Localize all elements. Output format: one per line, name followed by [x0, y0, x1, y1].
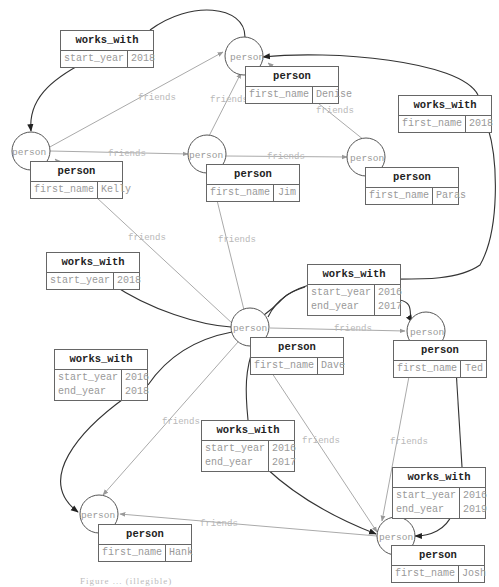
- edge-works-with-dave-ww5: [148, 332, 232, 385]
- edge-label: friends: [162, 417, 200, 427]
- person-table-josh[interactable]: person first_nameJosh: [391, 545, 485, 583]
- prop-value: Ted: [461, 361, 486, 377]
- prop-key: start_year: [205, 442, 265, 456]
- edge-label: friends: [108, 149, 146, 159]
- edge-works-with-denise-kelly: [31, 10, 245, 131]
- edge-label: friends: [200, 519, 238, 529]
- prop-key: start_year: [58, 371, 118, 385]
- prop-value: 2019: [463, 503, 487, 517]
- table-title: person: [392, 546, 484, 566]
- edge-works-with-ww5-hank: [61, 397, 126, 512]
- prop-value: Dave: [318, 358, 348, 374]
- edge-works-with-ww6-josh: [266, 468, 376, 534]
- prop-value: 2017: [272, 456, 296, 470]
- prop-key: first_name: [366, 188, 433, 204]
- prop-key: first_name: [207, 185, 274, 201]
- person-table-hank[interactable]: person first_nameHank: [98, 524, 192, 562]
- works-with-table-6[interactable]: works_with start_yearend_year 20162017: [201, 420, 295, 472]
- prop-value: 2016: [463, 489, 487, 503]
- prop-key: first_name: [246, 87, 313, 103]
- svg-text:person: person: [233, 323, 267, 334]
- edge-works-with-ted-ww7: [456, 369, 462, 467]
- table-title: works_with: [55, 350, 147, 370]
- table-title: works_with: [399, 96, 491, 116]
- works-with-table-1[interactable]: works_with start_year2018: [60, 30, 154, 68]
- prop-value: 2016: [272, 442, 296, 456]
- prop-value: Josh: [459, 566, 489, 582]
- table-title: works_with: [308, 265, 400, 285]
- edge-label: friends: [302, 436, 340, 446]
- prop-value: 2016: [125, 371, 149, 385]
- prop-value: 2017: [378, 300, 402, 314]
- edge-label: friends: [138, 93, 176, 103]
- edge-label: friends: [210, 95, 248, 105]
- prop-key: start_year: [396, 489, 456, 503]
- table-title: works_with: [61, 31, 153, 51]
- table-title: works_with: [393, 468, 485, 488]
- table-title: person: [99, 525, 191, 545]
- works-with-table-3[interactable]: works_with start_year2018: [46, 252, 140, 290]
- works-with-table-5[interactable]: works_with start_yearend_year 20162018: [54, 349, 148, 401]
- prop-key: first_name: [99, 545, 166, 561]
- svg-text:person: person: [230, 52, 264, 63]
- person-table-ted[interactable]: person first_nameTed: [393, 340, 487, 378]
- prop-value: Hank: [166, 545, 196, 561]
- prop-value: Jim: [274, 185, 299, 201]
- svg-text:person: person: [410, 327, 444, 338]
- prop-key: start_year: [61, 51, 128, 67]
- svg-text:person: person: [379, 532, 413, 543]
- svg-text:person: person: [81, 510, 115, 521]
- prop-key: first_name: [251, 358, 318, 374]
- svg-text:person: person: [189, 150, 223, 161]
- prop-key: first_name: [392, 566, 459, 582]
- edge-label: friends: [267, 152, 305, 162]
- person-table-paras[interactable]: person first_nameParas: [365, 167, 459, 205]
- works-with-table-7[interactable]: works_with start_yearend_year 20162019: [392, 467, 486, 519]
- prop-value: 2018: [114, 273, 144, 289]
- prop-key: first_name: [394, 361, 461, 377]
- person-table-jim[interactable]: person first_nameJim: [206, 164, 300, 202]
- figure-caption: Figure ... (illegible): [80, 576, 172, 586]
- edge-label: friends: [390, 437, 428, 447]
- prop-key: end_year: [311, 300, 371, 314]
- works-with-table-2[interactable]: works_with first_name2018: [398, 95, 492, 133]
- svg-text:person: person: [12, 147, 46, 158]
- svg-text:person: person: [350, 153, 384, 164]
- person-table-kelly[interactable]: person first_nameKelly: [30, 161, 123, 199]
- table-title: works_with: [202, 421, 294, 441]
- edge-label: friends: [334, 324, 372, 334]
- table-title: person: [251, 338, 343, 358]
- table-title: person: [394, 341, 486, 361]
- prop-key: start_year: [311, 286, 371, 300]
- table-title: person: [246, 67, 338, 87]
- prop-key: end_year: [58, 385, 118, 399]
- prop-key: end_year: [205, 456, 265, 470]
- prop-value: 2016: [378, 286, 402, 300]
- edge-label: friends: [128, 233, 166, 243]
- table-title: person: [366, 168, 458, 188]
- person-table-dave[interactable]: person first_nameDave: [250, 337, 344, 375]
- works-with-table-4[interactable]: works_with start_yearend_year 20162017: [307, 264, 401, 316]
- prop-value: Kelly: [98, 182, 134, 198]
- prop-key: first_name: [31, 182, 98, 198]
- prop-value: 2018: [125, 385, 149, 399]
- prop-value: Denise: [313, 87, 355, 103]
- table-title: person: [31, 162, 122, 182]
- prop-key: start_year: [47, 273, 114, 289]
- person-table-denise[interactable]: person first_nameDenise: [245, 66, 339, 104]
- prop-value: 2018: [128, 51, 158, 67]
- edge-friends-jim-denise: [208, 73, 241, 138]
- edge-label: friends: [316, 106, 354, 116]
- prop-value: Paras: [433, 188, 469, 204]
- prop-key: first_name: [399, 116, 466, 132]
- edge-label: friends: [218, 235, 256, 245]
- prop-value: 2018: [466, 116, 496, 132]
- edge-friends-dave-jim: [214, 188, 244, 310]
- table-title: works_with: [47, 253, 139, 273]
- table-title: person: [207, 165, 299, 185]
- prop-key: end_year: [396, 503, 456, 517]
